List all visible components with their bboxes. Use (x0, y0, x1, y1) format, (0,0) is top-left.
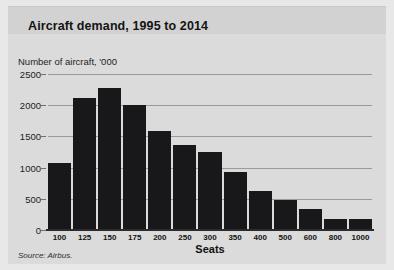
x-axis-tick-label: 800 (324, 233, 347, 242)
y-axis-tick-label: 2000 (20, 100, 41, 111)
bar (299, 209, 322, 230)
x-axis-line (46, 229, 374, 231)
y-axis-tick-label: 2500 (20, 69, 41, 80)
bar (73, 98, 96, 230)
bar (123, 105, 146, 230)
y-axis-tick-mark (41, 168, 46, 169)
chart-subtitle: Number of aircraft, '000 (18, 56, 117, 67)
bar (224, 172, 247, 230)
x-axis-tick-label: 200 (148, 233, 171, 242)
y-axis-tick-mark (41, 199, 46, 200)
bar (148, 131, 171, 230)
bar (274, 200, 297, 230)
x-axis-tick-label: 350 (224, 233, 247, 242)
x-axis-tick-label: 300 (198, 233, 221, 242)
x-axis-tick-label: 400 (249, 233, 272, 242)
x-axis-title: Seats (48, 243, 372, 255)
x-axis-tick-label: 600 (299, 233, 322, 242)
x-axis-tick-labels: 1001251501752002503003504005006008001000 (48, 233, 372, 242)
x-axis-tick-label: 150 (98, 233, 121, 242)
chart-title-band: Aircraft demand, 1995 to 2014 (8, 6, 386, 34)
x-axis-tick-label: 100 (48, 233, 71, 242)
bar (173, 145, 196, 230)
x-axis-tick-label: 500 (274, 233, 297, 242)
y-axis-tick-label: 1500 (20, 131, 41, 142)
x-axis-tick-label: 175 (123, 233, 146, 242)
y-axis-tick-mark (41, 136, 46, 137)
x-axis-tick-label: 250 (173, 233, 196, 242)
chart-figure: Aircraft demand, 1995 to 2014 Number of … (0, 0, 394, 270)
bar (249, 191, 272, 230)
x-axis-tick-label: 125 (73, 233, 96, 242)
x-axis-tick-label: 1000 (349, 233, 372, 242)
y-axis-tick-mark (41, 105, 46, 106)
bar (48, 163, 71, 230)
source-note: Source: Airbus. (18, 251, 72, 260)
page-title: Aircraft demand, 1995 to 2014 (28, 19, 208, 33)
y-axis-tick-label: 500 (25, 193, 41, 204)
bar (198, 152, 221, 230)
bar (98, 88, 121, 230)
y-axis-tick-label: 1000 (20, 162, 41, 173)
y-axis: 05001000150020002500 (0, 74, 41, 230)
y-axis-tick-mark (41, 74, 46, 75)
bar-series (48, 74, 372, 230)
